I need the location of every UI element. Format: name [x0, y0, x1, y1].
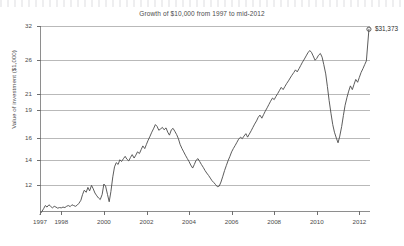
scan-artifact [0, 0, 404, 7]
x-tick-mark [40, 211, 41, 215]
x-tick-label: 2008 [259, 219, 289, 225]
x-tick-label: 2000 [89, 219, 119, 225]
x-tick-mark [232, 211, 233, 215]
chart-container: Growth of $10,000 from 1997 to mid-2012 … [0, 0, 404, 246]
chart-title: Growth of $10,000 from 1997 to mid-2012 [0, 10, 404, 17]
series-line-chart [40, 26, 370, 211]
x-tick-mark [61, 211, 62, 215]
x-tick-mark [359, 211, 360, 215]
x-tick-label: 2002 [132, 219, 162, 225]
x-tick-label: 2004 [174, 219, 204, 225]
x-tick-label: 2010 [302, 219, 332, 225]
x-tick-label: 1998 [46, 219, 76, 225]
end-value-annotation: $31,373 [375, 25, 398, 32]
x-tick-mark [317, 211, 318, 215]
x-axis-line [40, 211, 370, 212]
y-tick-label: 19 [8, 107, 32, 113]
x-tick-label: 2006 [217, 219, 247, 225]
x-tick-mark [104, 211, 105, 215]
plot-area [40, 26, 370, 211]
x-tick-mark [147, 211, 148, 215]
x-tick-mark [189, 211, 190, 215]
x-tick-mark [274, 211, 275, 215]
y-tick-label: 12 [8, 182, 32, 188]
x-tick-label: 2012 [344, 219, 374, 225]
y-tick-label: 32 [8, 23, 32, 29]
y-tick-label: 26 [8, 57, 32, 63]
y-tick-label: 16 [8, 135, 32, 141]
series-line-value-of-investment [40, 29, 369, 214]
y-tick-label: 14 [8, 157, 32, 163]
y-axis-title: Value of investment ($1,000) [10, 30, 17, 150]
y-tick-label: 21 [8, 91, 32, 97]
